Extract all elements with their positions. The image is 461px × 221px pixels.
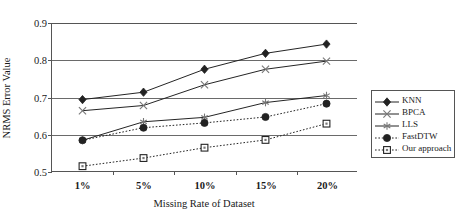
data-point-filled-diamond <box>140 88 147 96</box>
y-axis-tick-label: 0.8 <box>34 55 47 66</box>
x-axis-title: Missing Rate of Dataset <box>153 198 254 209</box>
x-axis-tick-label: 10% <box>195 180 216 191</box>
legend-marker-filled-diamond <box>374 94 400 106</box>
x-axis-tick-mark <box>174 171 175 175</box>
legend-item-lls[interactable]: LLS <box>374 118 451 130</box>
x-axis-tick-mark <box>236 171 237 175</box>
data-point-filled-circle <box>262 113 269 120</box>
data-point-open-square <box>201 144 208 151</box>
legend-item-knn[interactable]: KNN <box>374 94 451 106</box>
x-axis-tick-mark <box>113 171 114 175</box>
legend-marker-open-square <box>374 142 400 154</box>
data-point-open-square <box>384 147 391 154</box>
legend-label: KNN <box>400 94 422 106</box>
legend-item-fastdtw[interactable]: FastDTW <box>374 130 451 142</box>
data-point-filled-circle <box>383 134 390 141</box>
y-axis-tick-mark <box>48 172 52 173</box>
series-fastdtw <box>79 100 330 144</box>
data-point-open-square <box>79 163 86 170</box>
y-axis-tick-label: 0.5 <box>34 167 47 178</box>
x-axis-tick-label: 1% <box>75 180 91 191</box>
data-point-filled-diamond <box>323 40 330 48</box>
series-our-approach <box>79 120 330 169</box>
legend-marker-asterisk <box>374 118 400 130</box>
data-point-filled-diamond <box>383 98 390 106</box>
chart-figure: NRMS Error Value Missing Rate of Dataset… <box>0 0 461 221</box>
y-axis-title: NRMS Error Value <box>1 58 12 139</box>
data-point-filled-diamond <box>201 65 208 73</box>
series-knn <box>79 40 330 104</box>
data-point-filled-circle <box>323 100 330 107</box>
x-axis-tick-label: 20% <box>317 180 338 191</box>
data-point-filled-circle <box>201 119 208 126</box>
x-axis-tick-label: 5% <box>136 180 152 191</box>
data-point-filled-circle <box>79 137 86 144</box>
y-axis-tick-label: 0.6 <box>34 129 47 140</box>
plot-area: 0.50.60.70.80.9 1%5%10%15%20% <box>51 23 357 172</box>
legend-label: FastDTW <box>400 130 438 142</box>
legend-label: LLS <box>400 118 418 130</box>
series-layer <box>52 23 357 171</box>
data-point-open-square <box>262 137 269 144</box>
data-point-cross-x <box>201 81 208 88</box>
data-point-open-square <box>323 120 330 127</box>
legend: KNNBPCALLSFastDTWOur approach <box>371 90 455 158</box>
legend-label: Our approach <box>400 142 451 154</box>
y-axis-tick-label: 0.7 <box>34 92 47 103</box>
legend-item-bpca[interactable]: BPCA <box>374 106 451 118</box>
data-point-filled-diamond <box>79 95 86 103</box>
x-axis-tick-mark <box>297 171 298 175</box>
y-axis-tick-label: 0.9 <box>34 18 47 29</box>
data-point-filled-circle <box>140 124 147 131</box>
data-point-filled-diamond <box>262 49 269 57</box>
legend-marker-filled-circle <box>374 130 400 142</box>
x-axis-tick-label: 15% <box>256 180 277 191</box>
series-lls <box>79 92 330 144</box>
data-point-open-square <box>140 155 147 162</box>
legend-marker-cross-x <box>374 106 400 118</box>
legend-item-our-approach[interactable]: Our approach <box>374 142 451 154</box>
legend-label: BPCA <box>400 106 426 118</box>
